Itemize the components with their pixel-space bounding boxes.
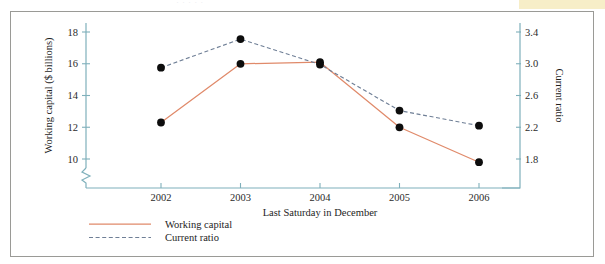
- left-axis-title: Working capital ($ billions): [43, 37, 55, 154]
- right-axis-tick-label: 2.6: [525, 90, 538, 101]
- right-axis-tick-label: 3.0: [525, 58, 538, 69]
- legend-label: Current ratio: [165, 232, 219, 243]
- highlight-strip: [519, 0, 605, 9]
- data-point: [237, 60, 245, 68]
- data-point: [237, 35, 245, 43]
- x-axis-tick-label: 2005: [389, 192, 410, 203]
- series-line-working-capital: [161, 62, 479, 162]
- data-point: [316, 61, 324, 69]
- data-point: [396, 123, 404, 131]
- right-axis-line: [502, 23, 520, 188]
- right-axis-tick-label: 3.4: [525, 27, 539, 38]
- chart-plot-area: 1012141618Working capital ($ billions) 1…: [11, 12, 595, 258]
- x-axis-tick-label: 2003: [230, 192, 251, 203]
- x-axis-tick-label: 2006: [469, 192, 490, 203]
- left-axis-tick-label: 18: [68, 27, 79, 38]
- line-chart: 1012141618Working capital ($ billions) 1…: [11, 12, 595, 258]
- data-point: [396, 107, 404, 115]
- legend-label: Working capital: [165, 219, 232, 230]
- right-axis-tick-label: 2.2: [525, 122, 538, 133]
- right-axis-title: Current ratio: [554, 69, 565, 123]
- left-axis-tick-label: 10: [68, 154, 79, 165]
- data-point: [475, 158, 483, 166]
- data-point: [475, 122, 483, 130]
- left-axis-break-symbol: [82, 168, 90, 188]
- right-axis-tick-label: 1.8: [525, 154, 538, 165]
- data-series-group: [157, 35, 483, 166]
- series-line-current-ratio: [161, 39, 479, 126]
- cropped-header-text: · · · · ·: [176, 0, 446, 9]
- x-axis-title: Last Saturday in December: [263, 207, 378, 218]
- left-axis: 1012141618Working capital ($ billions): [43, 23, 90, 188]
- right-axis: 1.82.22.63.03.4Current ratio: [502, 23, 565, 188]
- page-top-strip: · · · · ·: [0, 0, 605, 11]
- x-axis-tick-label: 2004: [310, 192, 332, 203]
- x-axis: 20022003200420052006Last Saturday in Dec…: [86, 183, 520, 218]
- left-axis-tick-label: 12: [68, 122, 79, 133]
- chart-legend: Working capitalCurrent ratio: [89, 219, 232, 244]
- data-point: [157, 64, 165, 72]
- x-axis-tick-label: 2002: [151, 192, 172, 203]
- figure-frame: 1012141618Working capital ($ billions) 1…: [10, 11, 594, 257]
- left-axis-tick-label: 16: [68, 58, 79, 69]
- left-axis-tick-label: 14: [68, 90, 79, 101]
- data-point: [157, 119, 165, 127]
